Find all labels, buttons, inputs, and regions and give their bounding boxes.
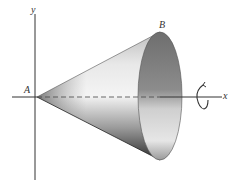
- apex-label-a: A: [24, 85, 30, 95]
- cone-diagram: [0, 0, 234, 186]
- y-axis-label: y: [31, 5, 35, 15]
- cone-base: [138, 32, 182, 160]
- rim-label-b: B: [159, 20, 165, 30]
- rotation-icon: [197, 82, 208, 109]
- x-axis-label: x: [223, 91, 227, 101]
